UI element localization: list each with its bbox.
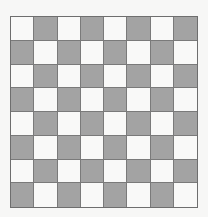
board-square-f3[interactable] bbox=[127, 136, 150, 160]
board-square-a1[interactable] bbox=[11, 183, 34, 207]
board-square-b8[interactable] bbox=[34, 17, 57, 41]
board-square-f6[interactable] bbox=[127, 65, 150, 89]
board-square-a5[interactable] bbox=[11, 88, 34, 112]
board-square-d3[interactable] bbox=[81, 136, 104, 160]
board-square-f1[interactable] bbox=[127, 183, 150, 207]
board-square-a8[interactable] bbox=[11, 17, 34, 41]
board-square-h5[interactable] bbox=[174, 88, 197, 112]
board-square-d2[interactable] bbox=[81, 160, 104, 184]
board-square-f5[interactable] bbox=[127, 88, 150, 112]
board-square-e6[interactable] bbox=[104, 65, 127, 89]
board-square-g4[interactable] bbox=[151, 112, 174, 136]
board-square-h8[interactable] bbox=[174, 17, 197, 41]
board-square-d6[interactable] bbox=[81, 65, 104, 89]
board-square-d7[interactable] bbox=[81, 41, 104, 65]
board-square-b6[interactable] bbox=[34, 65, 57, 89]
board-square-a4[interactable] bbox=[11, 112, 34, 136]
board-square-h7[interactable] bbox=[174, 41, 197, 65]
board-square-e5[interactable] bbox=[104, 88, 127, 112]
board-square-e3[interactable] bbox=[104, 136, 127, 160]
board-square-c1[interactable] bbox=[58, 183, 81, 207]
board-square-h2[interactable] bbox=[174, 160, 197, 184]
board-square-f4[interactable] bbox=[127, 112, 150, 136]
board-square-c6[interactable] bbox=[58, 65, 81, 89]
board-square-d4[interactable] bbox=[81, 112, 104, 136]
board-square-b2[interactable] bbox=[34, 160, 57, 184]
board-square-a7[interactable] bbox=[11, 41, 34, 65]
board-square-c7[interactable] bbox=[58, 41, 81, 65]
board-square-a2[interactable] bbox=[11, 160, 34, 184]
checkerboard bbox=[10, 16, 198, 208]
board-square-e8[interactable] bbox=[104, 17, 127, 41]
board-square-g7[interactable] bbox=[151, 41, 174, 65]
board-square-g2[interactable] bbox=[151, 160, 174, 184]
board-square-d5[interactable] bbox=[81, 88, 104, 112]
board-square-b7[interactable] bbox=[34, 41, 57, 65]
board-square-h3[interactable] bbox=[174, 136, 197, 160]
board-square-a6[interactable] bbox=[11, 65, 34, 89]
board-square-h6[interactable] bbox=[174, 65, 197, 89]
board-square-e4[interactable] bbox=[104, 112, 127, 136]
board-square-e2[interactable] bbox=[104, 160, 127, 184]
board-square-b3[interactable] bbox=[34, 136, 57, 160]
board-square-f2[interactable] bbox=[127, 160, 150, 184]
board-square-f8[interactable] bbox=[127, 17, 150, 41]
board-square-g5[interactable] bbox=[151, 88, 174, 112]
board-square-g1[interactable] bbox=[151, 183, 174, 207]
board-square-c2[interactable] bbox=[58, 160, 81, 184]
board-square-e1[interactable] bbox=[104, 183, 127, 207]
board-square-c3[interactable] bbox=[58, 136, 81, 160]
board-square-a3[interactable] bbox=[11, 136, 34, 160]
board-square-c8[interactable] bbox=[58, 17, 81, 41]
board-square-f7[interactable] bbox=[127, 41, 150, 65]
board-square-g8[interactable] bbox=[151, 17, 174, 41]
board-square-g6[interactable] bbox=[151, 65, 174, 89]
board-square-h1[interactable] bbox=[174, 183, 197, 207]
board-square-b5[interactable] bbox=[34, 88, 57, 112]
board-square-g3[interactable] bbox=[151, 136, 174, 160]
board-square-e7[interactable] bbox=[104, 41, 127, 65]
board-square-c5[interactable] bbox=[58, 88, 81, 112]
board-square-c4[interactable] bbox=[58, 112, 81, 136]
board-square-d1[interactable] bbox=[81, 183, 104, 207]
board-square-b4[interactable] bbox=[34, 112, 57, 136]
board-square-d8[interactable] bbox=[81, 17, 104, 41]
board-square-h4[interactable] bbox=[174, 112, 197, 136]
board-square-b1[interactable] bbox=[34, 183, 57, 207]
